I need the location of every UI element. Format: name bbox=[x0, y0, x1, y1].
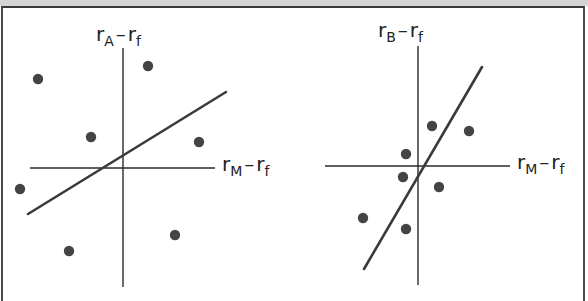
panel-a-data-point bbox=[33, 74, 43, 84]
panel-a-x-axis-label: rM–rf bbox=[222, 154, 270, 178]
panel-b-data-point bbox=[398, 172, 408, 182]
panel-a-data-point bbox=[170, 230, 180, 240]
panel-b-data-point bbox=[401, 224, 411, 234]
panel-b-data-point bbox=[464, 126, 474, 136]
panel-a-data-point bbox=[143, 61, 153, 71]
panel-a-data-point bbox=[15, 184, 25, 194]
panel-a bbox=[15, 48, 226, 287]
panel-a-data-point bbox=[64, 246, 74, 256]
panel-b-data-point bbox=[401, 149, 411, 159]
panel-b-data-point bbox=[434, 182, 444, 192]
panel-b-data-point bbox=[427, 121, 437, 131]
panel-a-data-point bbox=[194, 137, 204, 147]
panel-b-x-axis-label: rM–rf bbox=[517, 152, 565, 176]
panel-b-regression-line bbox=[364, 67, 482, 269]
panel-a-regression-line bbox=[28, 92, 226, 214]
panel-a-data-point bbox=[86, 132, 96, 142]
panel-a-y-axis-label: rA–rf bbox=[96, 24, 141, 48]
panel-b-y-axis-label: rB–rf bbox=[378, 20, 423, 44]
panel-b bbox=[325, 46, 510, 285]
panel-b-data-point bbox=[358, 213, 368, 223]
